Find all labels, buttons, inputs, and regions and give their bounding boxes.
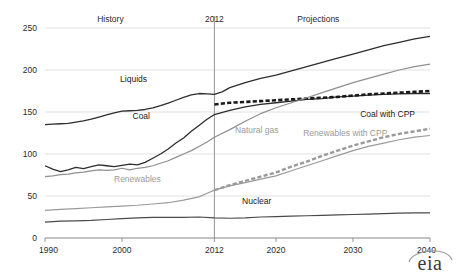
series-line-renewables-with-cpp (214, 129, 430, 190)
region-label: Projections (297, 14, 339, 24)
region-labels: History2012Projections (97, 14, 339, 24)
series-line-natural-gas (45, 64, 430, 177)
region-label: History (97, 14, 124, 24)
series-label-nuclear: Nuclear (242, 196, 271, 206)
series-label-renewables-with-cpp: Renewables with CPP (303, 128, 387, 138)
region-label: 2012 (205, 14, 224, 24)
y-tick-label: 150 (23, 107, 37, 117)
y-tick-label: 250 (23, 23, 37, 33)
series-label-liquids: Liquids (120, 74, 147, 84)
x-tick-label: 2012 (205, 245, 224, 255)
x-tick-label: 2020 (267, 245, 286, 255)
series-label-coal-with-cpp: Coal with CPP (360, 109, 415, 119)
series-line-nuclear (45, 213, 430, 222)
x-tick-label: 2000 (113, 245, 132, 255)
logo-wordmark: eia (418, 252, 443, 274)
y-tick-label: 50 (28, 191, 38, 201)
y-axis: 050100150200250 (23, 23, 37, 243)
y-tick-label: 200 (23, 65, 37, 75)
y-tick-label: 100 (23, 149, 37, 159)
x-axis: 199020002012202020302040 (39, 238, 436, 255)
x-tick-label: 1990 (39, 245, 58, 255)
eia-logo: eia (409, 251, 452, 274)
series-label-renewables: Renewables (114, 174, 161, 184)
energy-consumption-line-chart: 050100150200250199020002012202020302040H… (0, 0, 462, 276)
series-label-natural-gas: Natural gas (235, 125, 278, 135)
series-label-coal: Coal (133, 111, 151, 121)
chart-container: 050100150200250199020002012202020302040H… (0, 0, 462, 276)
series-line-renewables (45, 136, 430, 211)
x-tick-label: 2030 (344, 245, 363, 255)
y-tick-label: 0 (32, 233, 37, 243)
